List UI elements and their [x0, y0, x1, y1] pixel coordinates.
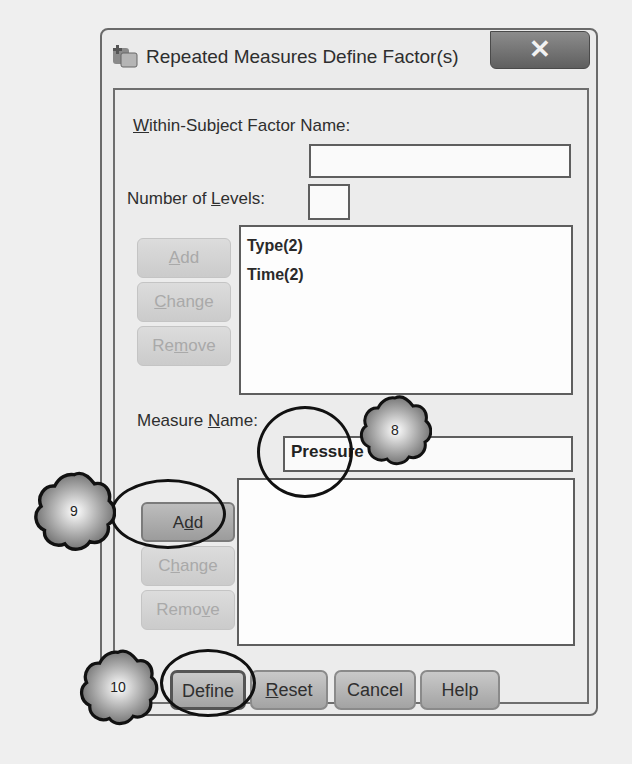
- measure-remove-button[interactable]: Remove: [141, 590, 235, 630]
- factor-remove-button[interactable]: Remove: [137, 326, 231, 366]
- measure-list[interactable]: [237, 478, 575, 646]
- close-button[interactable]: ✕: [490, 31, 590, 69]
- factor-name-input[interactable]: [309, 144, 571, 178]
- define-button[interactable]: Define: [170, 670, 246, 710]
- measure-name-label: Measure Name:: [137, 411, 258, 431]
- factor-list[interactable]: Type(2) Time(2): [239, 225, 573, 395]
- measure-change-button[interactable]: Change: [141, 546, 235, 586]
- content-panel: Within-Subject Factor Name: Number of Le…: [113, 88, 589, 704]
- callout-step-10: 10: [76, 648, 160, 726]
- callout-step-8: 8: [358, 394, 432, 466]
- factor-list-item[interactable]: Time(2): [247, 260, 565, 289]
- repeated-measures-dialog: Repeated Measures Define Factor(s) ✕ Wit…: [100, 28, 598, 716]
- close-icon: ✕: [529, 34, 551, 64]
- measure-add-button[interactable]: Add: [141, 502, 235, 542]
- levels-label: Number of Levels:: [127, 189, 265, 209]
- number-of-levels-input[interactable]: [308, 184, 350, 220]
- spss-dialog-icon: [112, 44, 138, 68]
- factor-name-label: Within-Subject Factor Name:: [133, 116, 350, 136]
- reset-button[interactable]: Reset: [250, 670, 328, 710]
- cancel-button[interactable]: Cancel: [334, 670, 416, 710]
- dialog-title: Repeated Measures Define Factor(s): [146, 46, 459, 68]
- callout-step-9: 9: [32, 470, 116, 552]
- factor-change-button[interactable]: Change: [137, 282, 231, 322]
- factor-list-item[interactable]: Type(2): [247, 231, 565, 260]
- title-bar: Repeated Measures Define Factor(s) ✕: [102, 30, 596, 82]
- factor-add-button[interactable]: Add: [137, 238, 231, 278]
- help-button[interactable]: Help: [420, 670, 500, 710]
